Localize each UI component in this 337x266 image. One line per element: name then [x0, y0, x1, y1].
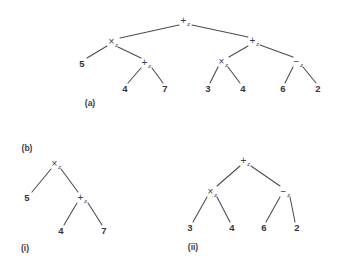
caption-i: (i): [21, 243, 29, 253]
operator-symbol: ×: [208, 186, 214, 197]
operator-symbol: +: [181, 15, 187, 26]
caption-a: (a): [85, 98, 95, 108]
operator-symbol: +: [78, 192, 84, 203]
operator-symbol: ×: [52, 158, 58, 169]
caption-b: (b): [22, 143, 33, 153]
tree-edge: [64, 203, 77, 225]
operator-symbol: +: [241, 155, 247, 166]
expression-trees-figure: +z×z+z5+z×z−z473462×z5+z47+z×z−z3462 (a)…: [0, 0, 337, 266]
tree-edge: [210, 67, 218, 83]
tree-edge: [228, 67, 240, 83]
operator-subscript: z: [148, 62, 151, 70]
tree-leaf-node: 2: [315, 84, 320, 94]
operator-subscript: z: [84, 197, 87, 205]
tree-operator-node: ×z: [219, 57, 228, 67]
tree-operator-node: +z: [181, 16, 190, 26]
tree-leaf-node: 7: [101, 226, 106, 236]
edges-group: [32, 25, 316, 225]
tree-edge: [118, 47, 141, 58]
tree-leaf-node: 6: [261, 223, 266, 233]
tree-leaf-node: 3: [187, 223, 192, 233]
tree-leaf-node: 5: [24, 193, 29, 203]
tree-edge: [61, 169, 78, 192]
operator-subscript: z: [58, 163, 61, 171]
tree-edge: [152, 68, 163, 83]
operator-subscript: z: [115, 41, 118, 49]
operator-subscript: z: [300, 61, 303, 69]
tree-edge: [87, 46, 107, 58]
tree-edge: [260, 45, 293, 57]
tree-leaf-node: 3: [205, 84, 210, 94]
tree-leaf-node: 4: [122, 84, 127, 94]
tree-edge: [88, 203, 102, 225]
tree-operator-node: +z: [250, 36, 259, 46]
tree-edge: [217, 197, 230, 222]
tree-operator-node: +z: [142, 58, 151, 68]
tree-edge: [32, 169, 51, 192]
tree-edge: [229, 46, 248, 57]
caption-ii: (ii): [188, 242, 198, 252]
tree-operator-node: ×z: [109, 37, 118, 47]
operator-symbol: ×: [219, 56, 225, 67]
tree-leaf-node: 6: [280, 84, 285, 94]
tree-edge: [285, 67, 293, 83]
operator-symbol: +: [250, 35, 256, 46]
operator-symbol: −: [281, 186, 287, 197]
tree-operator-node: −z: [294, 57, 303, 67]
operator-subscript: z: [256, 40, 259, 48]
tree-operator-node: ×z: [208, 187, 217, 197]
tree-operator-node: +z: [78, 193, 87, 203]
tree-edge: [251, 166, 280, 186]
tree-operator-node: ×z: [52, 159, 61, 169]
tree-leaf-node: 5: [79, 59, 84, 69]
operator-symbol: ×: [109, 36, 115, 47]
tree-operator-node: +z: [241, 156, 250, 166]
tree-edge: [303, 67, 316, 83]
tree-edge: [193, 197, 207, 222]
tree-edge: [192, 25, 248, 37]
tree-leaf-node: 4: [58, 226, 63, 236]
tree-edge: [120, 25, 179, 38]
tree-edge: [290, 197, 295, 222]
tree-edge: [217, 166, 240, 186]
tree-leaf-node: 4: [240, 84, 245, 94]
operator-symbol: −: [294, 56, 300, 67]
operator-subscript: z: [225, 61, 228, 69]
operator-subscript: z: [247, 160, 250, 168]
operator-subscript: z: [187, 20, 190, 28]
tree-edge: [128, 68, 141, 83]
tree-operator-node: −z: [281, 187, 290, 197]
tree-leaf-node: 2: [294, 223, 299, 233]
operator-symbol: +: [142, 57, 148, 68]
tree-leaf-node: 4: [229, 223, 234, 233]
tree-edges-layer: [0, 0, 337, 266]
operator-subscript: z: [214, 191, 217, 199]
tree-edge: [266, 197, 280, 222]
tree-leaf-node: 7: [162, 84, 167, 94]
operator-subscript: z: [287, 191, 290, 199]
